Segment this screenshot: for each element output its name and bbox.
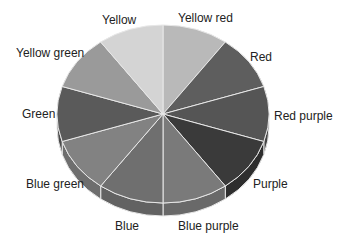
slice-label: Purple <box>253 177 288 191</box>
slice-label: Red <box>250 50 272 64</box>
slice-label: Red purple <box>274 109 333 123</box>
pie-slices <box>57 25 269 203</box>
slice-label: Yellow green <box>16 46 84 60</box>
slice-label: Green <box>22 107 55 121</box>
slice-label: Blue green <box>26 177 84 191</box>
slice-label: Blue purple <box>178 219 239 233</box>
slice-label: Yellow red <box>178 11 233 25</box>
slice-label: Blue <box>115 219 139 233</box>
pie-chart: Yellow redRedRed purplePurpleBlue purple… <box>0 0 342 242</box>
slice-label: Yellow <box>102 13 137 27</box>
